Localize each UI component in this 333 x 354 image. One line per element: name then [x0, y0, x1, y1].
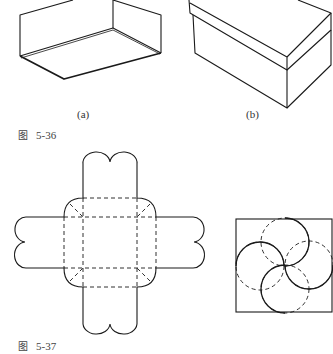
caption-number: 5-37: [36, 340, 56, 352]
figure-caption-5-36: 图5-36: [18, 127, 56, 142]
subfigure-label-b: (b): [246, 108, 259, 120]
caption-prefix: 图: [18, 130, 28, 141]
box-b-drawing: [189, 0, 331, 108]
caption-number: 5-36: [36, 129, 56, 141]
box-a-drawing: [20, 0, 161, 79]
box-net-drawing: [15, 152, 205, 334]
figure-caption-5-37: 图5-37: [18, 338, 56, 353]
pinwheel-closure-drawing: [236, 218, 333, 313]
caption-prefix: 图: [18, 341, 28, 352]
figure-canvas: [0, 0, 333, 354]
subfigure-label-a: (a): [77, 108, 89, 120]
